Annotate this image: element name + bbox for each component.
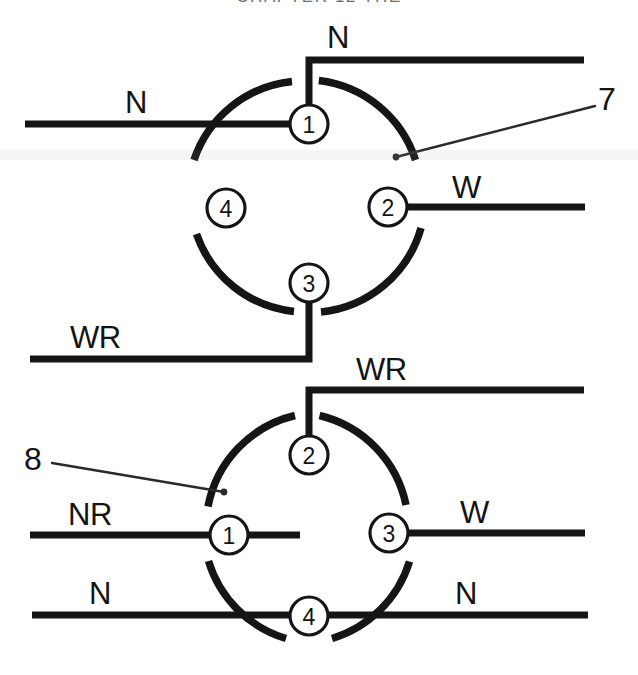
lower-terminal-3: 3	[370, 514, 408, 552]
lower-terminal-1-number: 1	[223, 523, 236, 549]
upper-terminal-3: 3	[290, 264, 328, 302]
upper-connector-group: 1 2 3 4 N N	[25, 20, 616, 359]
lower-terminal-2-number: 2	[303, 443, 316, 469]
lower-body-arc-sw	[209, 561, 287, 639]
upper-terminal-2-number: 2	[382, 195, 395, 221]
upper-label-left-n: N	[125, 85, 147, 120]
lower-label-bottom-right-n: N	[455, 576, 477, 611]
upper-callout-7-number: 7	[598, 81, 616, 117]
upper-body-arc-ne	[319, 81, 416, 161]
lower-terminal-2: 2	[290, 436, 328, 474]
lower-label-left-nr: NR	[68, 497, 112, 532]
lower-callout-8-leader	[52, 463, 227, 495]
upper-label-top-n: N	[327, 20, 349, 55]
diagram-canvas: 1 2 3 4 N N	[0, 0, 638, 675]
wiring-diagram-figure: CHAPTER 12 THE 1	[0, 0, 638, 675]
upper-wire-top-n	[309, 60, 584, 128]
lower-terminal-4: 4	[290, 597, 328, 635]
upper-label-right-w: W	[452, 170, 482, 205]
upper-callout-7-leader	[393, 106, 595, 160]
lower-terminal-4-number: 4	[303, 604, 316, 630]
upper-label-bottom-wr: WR	[70, 320, 121, 355]
lower-terminal-3-number: 3	[383, 521, 396, 547]
lower-terminal-1: 1	[210, 516, 248, 554]
lower-connector-group: 2 1 3 4 WR NR	[24, 352, 588, 639]
lower-body-arc-ne	[320, 416, 407, 506]
upper-body-arc-sw	[197, 234, 295, 312]
lower-callout-8-number: 8	[24, 441, 42, 477]
upper-terminal-4: 4	[207, 189, 245, 227]
upper-terminal-1-number: 1	[303, 112, 316, 138]
upper-terminal-2: 2	[369, 188, 407, 226]
lower-callout-8-leader-line	[52, 463, 224, 492]
upper-body-arc-se	[321, 228, 421, 312]
upper-terminal-3-number: 3	[303, 271, 316, 297]
lower-label-bottom-left-n: N	[89, 576, 111, 611]
upper-terminal-1: 1	[290, 105, 328, 143]
upper-terminal-4-number: 4	[220, 196, 233, 222]
lower-label-top-wr: WR	[356, 352, 407, 387]
lower-callout-8-leader-dot	[221, 489, 228, 496]
upper-callout-7-leader-dot	[393, 154, 400, 161]
upper-callout-7-leader-line	[396, 106, 595, 157]
lower-body-arc-se	[332, 562, 410, 639]
lower-label-right-w: W	[460, 495, 490, 530]
